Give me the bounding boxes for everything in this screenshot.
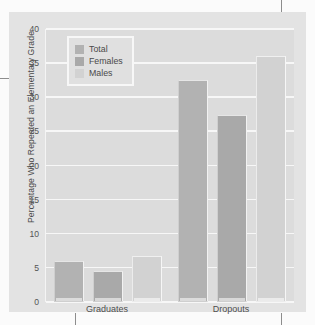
bar-graduates-females[interactable] [93,271,123,302]
bar-dropouts-total[interactable] [178,80,208,302]
y-tick-label-10: 10 [29,229,39,239]
legend-label: Males [89,68,112,78]
bar-graduates-total[interactable] [54,261,84,302]
y-tick-label-35: 35 [29,58,39,68]
legend-label: Total [89,44,108,54]
chart-legend: TotalFemalesMales [67,36,134,86]
bar-dropouts-females[interactable] [217,115,247,302]
legend-label: Females [89,56,123,66]
y-tick-label-30: 30 [29,92,39,102]
bar-graduates-males[interactable] [132,256,162,302]
legend-swatch-females-icon [75,57,84,66]
x-label-graduates: Graduates [86,304,128,314]
bar-dropouts-males[interactable] [256,56,286,302]
legend-swatch-total-icon [75,45,84,54]
x-label-dropouts: Dropouts [213,304,250,314]
y-tick-label-25: 25 [29,126,39,136]
y-tick-label-40: 40 [29,24,39,34]
legend-item-total[interactable]: Total [75,43,123,55]
legend-item-females[interactable]: Females [75,55,123,67]
bar-chart-figure: Percentage Who Repeated an Elementary Gr… [9,12,306,312]
x-axis-category-labels: GraduatesDropouts [45,304,293,320]
legend-swatch-males-icon [75,69,84,78]
y-axis-tick-labels: 0510152025303540 [9,29,43,302]
y-tick-label-15: 15 [29,195,39,205]
y-tick-label-5: 5 [34,263,39,273]
y-tick-label-0: 0 [34,297,39,307]
legend-item-males[interactable]: Males [75,67,123,79]
y-tick-label-20: 20 [29,161,39,171]
